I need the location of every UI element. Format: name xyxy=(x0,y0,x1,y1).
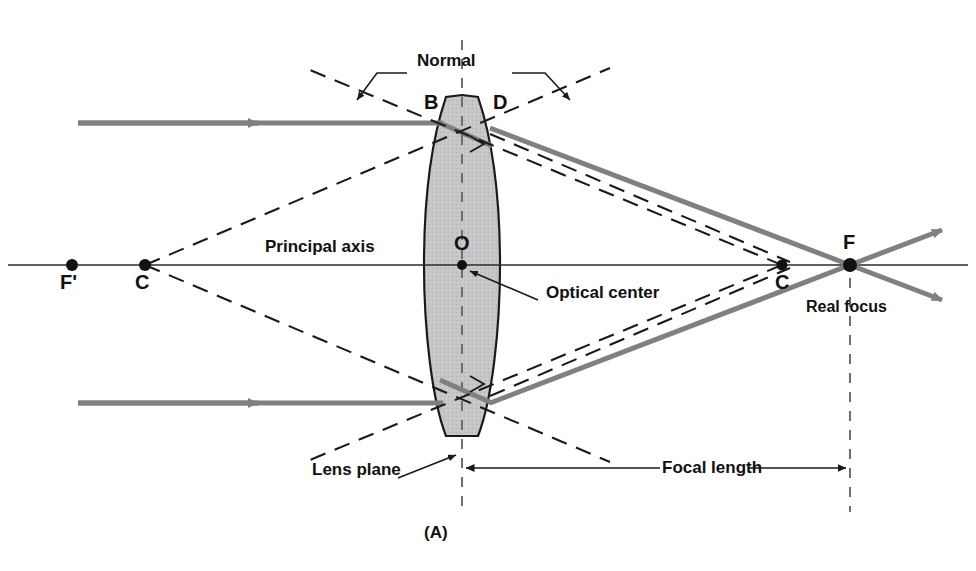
label-f: F xyxy=(843,232,855,252)
optics-diagram-figure: F' C B D O C F Normal Principal axis Opt… xyxy=(0,0,976,571)
label-o: O xyxy=(454,233,470,253)
undeviated-line-upper xyxy=(490,134,790,262)
normal-right-upper xyxy=(305,68,782,265)
label-b: B xyxy=(424,92,438,112)
label-optical-center: Optical center xyxy=(546,284,659,301)
point-dot-f xyxy=(843,258,857,272)
point-dot-f-prime xyxy=(66,259,78,271)
normal-left-lower xyxy=(145,265,610,462)
normal-leader-left xyxy=(357,73,407,100)
point-dot-o xyxy=(457,260,467,270)
label-c-right: C xyxy=(775,272,789,292)
normal-left-upper xyxy=(145,68,610,265)
normal-right-lower xyxy=(305,265,782,462)
incident-rays xyxy=(78,123,443,403)
ray-after-focus-up xyxy=(850,230,942,265)
label-c-left: C xyxy=(135,272,149,292)
refracted-ray-lower xyxy=(490,265,850,403)
figure-caption: (A) xyxy=(424,524,448,541)
label-f-prime: F' xyxy=(60,272,77,292)
ray-after-focus-down xyxy=(850,265,942,300)
label-lens-plane: Lens plane xyxy=(312,461,401,478)
label-normal: Normal xyxy=(417,52,476,69)
label-principal-axis: Principal axis xyxy=(265,238,375,255)
label-real-focus: Real focus xyxy=(806,299,887,315)
point-dot-c-right xyxy=(777,260,788,271)
label-d: D xyxy=(493,92,507,112)
label-focal-length: Focal length xyxy=(662,459,762,476)
refracted-ray-upper xyxy=(490,128,850,265)
lens-plane-leader-line xyxy=(398,455,456,478)
point-dot-c-left xyxy=(139,259,151,271)
normal-leader-right xyxy=(512,73,570,100)
